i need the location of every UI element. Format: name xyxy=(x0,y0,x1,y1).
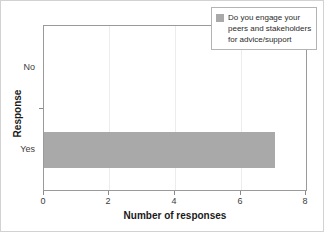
chart-figure: No Yes Response 0 2 4 6 8 Number of resp… xyxy=(0,0,324,232)
xtick-mark-8 xyxy=(305,191,306,195)
bar-yes xyxy=(44,132,275,168)
xtick-label-0: 0 xyxy=(28,196,58,206)
ytick-label-no: No xyxy=(0,62,35,72)
xtick-mark-2 xyxy=(108,191,109,195)
legend-swatch-icon xyxy=(216,14,224,22)
xtick-label-6: 6 xyxy=(225,196,255,206)
xtick-label-4: 4 xyxy=(159,196,189,206)
legend-label: Do you engage your peers and stakeholder… xyxy=(228,12,312,45)
xtick-mark-4 xyxy=(174,191,175,195)
bar-series xyxy=(44,26,306,190)
ytick-mark-boundary xyxy=(39,108,43,109)
xtick-label-2: 2 xyxy=(93,196,123,206)
xtick-mark-0 xyxy=(43,191,44,195)
chart-legend: Do you engage your peers and stakeholder… xyxy=(211,7,317,50)
xtick-mark-6 xyxy=(240,191,241,195)
xtick-label-8: 8 xyxy=(290,196,320,206)
y-axis-title: Response xyxy=(12,74,23,154)
x-axis-title: Number of responses xyxy=(43,210,307,221)
